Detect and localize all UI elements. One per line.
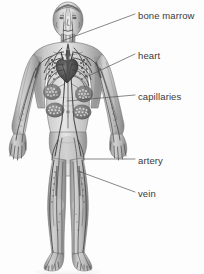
right-hand [9,134,26,160]
label-heart: heart [138,50,160,61]
left-hand [110,134,127,160]
label-bone-marrow: bone marrow [138,10,195,21]
label-vein: vein [138,188,156,199]
circulatory-system-figure: bone marrow heart capillaries artery vei… [0,0,204,274]
human-body-illustration [0,0,204,274]
label-capillaries: capillaries [138,91,181,102]
label-artery: artery [138,155,163,166]
